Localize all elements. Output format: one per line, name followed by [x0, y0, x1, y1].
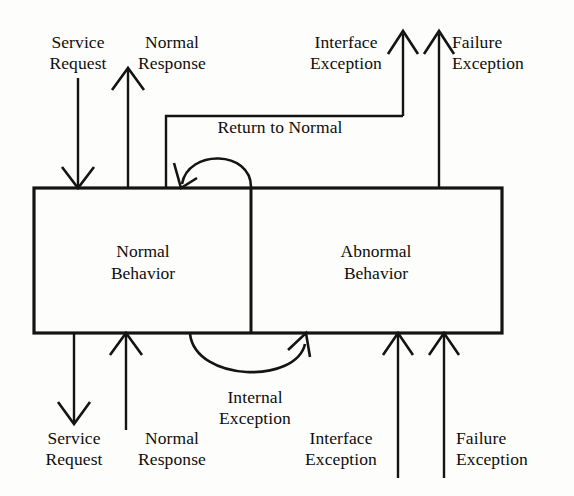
- state-label-normal-behavior-line1: Normal: [78, 240, 208, 262]
- label-top-normal-response-line2: Response: [110, 53, 234, 74]
- label-bottom-failure-exception-line1: Failure: [456, 428, 562, 449]
- state-label-abnormal-behavior: Abnormal Behavior: [311, 240, 441, 284]
- state-label-normal-behavior: Normal Behavior: [78, 240, 208, 284]
- label-bottom-normal-response: Normal Response: [110, 428, 234, 470]
- label-bottom-interface-exception-line1: Interface: [288, 428, 394, 449]
- label-bottom-interface-exception-line2: Exception: [288, 449, 394, 470]
- state-label-abnormal-behavior-line2: Behavior: [311, 262, 441, 284]
- state-diagram: Service Request Normal Response Interfac…: [0, 0, 574, 496]
- label-internal-exception: Internal Exception: [192, 387, 318, 429]
- label-top-interface-exception: Interface Exception: [293, 32, 399, 74]
- label-bottom-normal-response-line2: Response: [110, 449, 234, 470]
- label-internal-exception-line2: Exception: [192, 408, 318, 429]
- top-failure-exception-arrow: [424, 31, 454, 188]
- top-normal-response-arrow: [112, 68, 144, 188]
- return-to-normal-arc: [174, 158, 251, 188]
- label-top-normal-response: Normal Response: [110, 32, 234, 74]
- label-bottom-normal-response-line1: Normal: [110, 428, 234, 449]
- label-top-failure-exception: Failure Exception: [452, 32, 558, 74]
- bottom-service-request-arrow: [58, 333, 90, 424]
- label-top-normal-response-line1: Normal: [110, 32, 234, 53]
- bottom-failure-exception-arrow: [429, 333, 459, 478]
- label-bottom-failure-exception: Failure Exception: [456, 428, 562, 470]
- label-return-to-normal: Return to Normal: [182, 117, 378, 138]
- state-label-normal-behavior-line2: Behavior: [78, 262, 208, 284]
- bottom-normal-response-arrow: [110, 333, 142, 430]
- label-bottom-failure-exception-line2: Exception: [456, 449, 562, 470]
- label-bottom-interface-exception: Interface Exception: [288, 428, 394, 470]
- top-service-request-arrow: [62, 78, 94, 188]
- state-label-abnormal-behavior-line1: Abnormal: [311, 240, 441, 262]
- label-return-to-normal-line1: Return to Normal: [182, 117, 378, 138]
- label-top-failure-exception-line1: Failure: [452, 32, 558, 53]
- label-internal-exception-line1: Internal: [192, 387, 318, 408]
- label-top-interface-exception-line2: Exception: [293, 53, 399, 74]
- label-top-failure-exception-line2: Exception: [452, 53, 558, 74]
- internal-exception-arc: [190, 333, 310, 372]
- label-top-interface-exception-line1: Interface: [293, 32, 399, 53]
